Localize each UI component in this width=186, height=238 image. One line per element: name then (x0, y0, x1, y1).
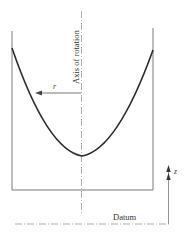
rotating-container-diagram: r Axis of rotation Datum z (0, 0, 186, 238)
z-label: z (173, 167, 177, 176)
arrowhead-icon (35, 91, 42, 96)
radius-arrow (35, 91, 81, 96)
arrowhead-icon (166, 173, 170, 180)
arrowhead-icon (166, 165, 170, 172)
radius-label: r (53, 82, 57, 91)
axis-label: Axis of rotation (71, 29, 81, 84)
container (12, 28, 153, 190)
free-surface-parabola (12, 48, 153, 156)
datum-label: Datum (113, 212, 137, 222)
z-height-arrow (166, 165, 170, 224)
